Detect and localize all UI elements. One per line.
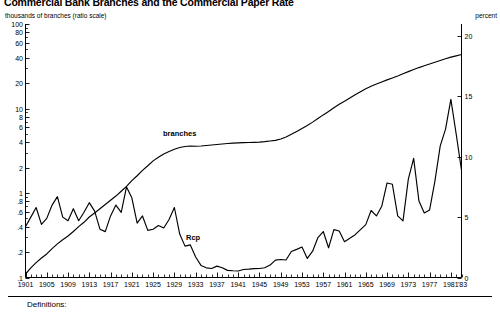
footer-divider <box>8 296 492 297</box>
left-axis-tick-label: .8 <box>17 198 23 205</box>
left-axis-tick-label: 40 <box>15 55 23 62</box>
right-axis-tick-label: 10 <box>465 154 473 161</box>
left-axis-tick-label: 100 <box>11 21 23 28</box>
chart-figure: Commercial Bank Branches and the Commerc… <box>0 0 500 313</box>
right-axis-tick-label: 5 <box>465 214 469 221</box>
x-axis-tick-label: 1953 <box>294 281 310 288</box>
right-axis-tick-labels: 20151050 <box>465 33 473 282</box>
x-axis-tick-label: 1941 <box>230 281 246 288</box>
x-axis-tick-label: 1969 <box>379 281 395 288</box>
x-axis-tick-label: 1945 <box>252 281 268 288</box>
left-axis-tick-label: 2 <box>19 165 23 172</box>
x-axis-tick-labels: 1901190519091913191719211925192919331937… <box>18 281 467 288</box>
x-axis-tick-label: 1973 <box>401 281 417 288</box>
left-axis-tick-labels: 100806040201086421.8.6.4.2.1 <box>11 21 23 282</box>
left-axis-tick-label: 6 <box>19 124 23 131</box>
x-axis-tick-label: 1933 <box>188 281 204 288</box>
x-axis-tick-label: 1949 <box>273 281 289 288</box>
chart-plot: 100806040201086421.8.6.4.2.1 20151050 19… <box>0 0 500 313</box>
left-axis-tick-label: 80 <box>15 29 23 36</box>
x-axis-ticks <box>27 273 463 278</box>
footnote-definitions: Definitions: <box>27 300 67 309</box>
right-axis-tick-label: 20 <box>465 33 473 40</box>
x-axis-tick-label: 1917 <box>103 281 119 288</box>
left-axis-tick-label: 4 <box>19 139 23 146</box>
x-axis-tick-label: 1957 <box>315 281 331 288</box>
x-axis-tick-label-end: '83 <box>458 281 467 288</box>
x-axis-tick-label: 1981 <box>443 281 459 288</box>
x-axis-tick-label: 1925 <box>145 281 161 288</box>
left-axis-tick-label: 60 <box>15 40 23 47</box>
series-label-branches: branches <box>163 129 196 138</box>
series-line-branches <box>26 55 462 274</box>
x-axis-tick-label: 1961 <box>337 281 353 288</box>
x-axis-tick-label: 1921 <box>124 281 140 288</box>
x-axis-tick-label: 1937 <box>209 281 225 288</box>
left-axis-tick-label: .4 <box>17 224 23 231</box>
x-axis-tick-label: 1913 <box>82 281 98 288</box>
x-axis-tick-label: 1977 <box>422 281 438 288</box>
x-axis-tick-label: 1901 <box>18 281 34 288</box>
left-axis-tick-label: .6 <box>17 209 23 216</box>
x-axis-tick-label: 1965 <box>358 281 374 288</box>
series-line-rcp <box>26 99 462 271</box>
left-axis-tick-label: 8 <box>19 114 23 121</box>
left-axis-tick-label: 20 <box>15 80 23 87</box>
x-axis-tick-label: 1929 <box>167 281 183 288</box>
left-axis-tick-label: .2 <box>17 249 23 256</box>
left-axis-ticks <box>26 25 30 279</box>
x-axis-tick-label: 1909 <box>60 281 76 288</box>
right-axis-tick-label: 15 <box>465 93 473 100</box>
left-axis-tick-label: 1 <box>19 190 23 197</box>
left-axis-tick-label: 10 <box>15 106 23 113</box>
series-label-rcp: Rcp <box>186 233 201 242</box>
x-axis-tick-label: 1905 <box>39 281 55 288</box>
